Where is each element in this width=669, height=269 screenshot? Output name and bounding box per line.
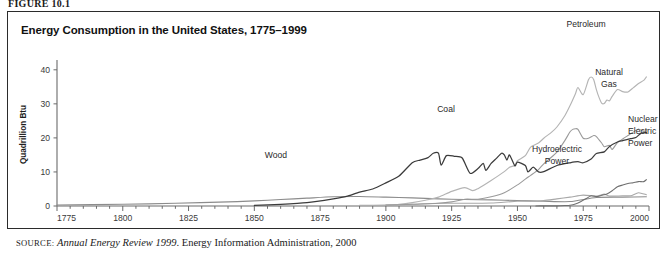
series-annotation-nuclear: Nuclear bbox=[628, 114, 658, 124]
y-axis-tick-label: 40 bbox=[40, 65, 50, 75]
x-axis-tick-label: 1900 bbox=[376, 213, 395, 223]
series-annotation-nuclear: Electric bbox=[628, 126, 657, 136]
chart-plot-area: 010203040Quadrillion Btu1775180018251850… bbox=[8, 12, 661, 230]
figure-page: FIGURE 10.1 Energy Consumption in the Un… bbox=[0, 0, 669, 269]
source-prefix: source: bbox=[16, 238, 54, 248]
x-axis-tick-label: 1825 bbox=[179, 213, 198, 223]
y-axis-tick-label: 20 bbox=[40, 133, 50, 143]
x-axis-tick-label: 1975 bbox=[574, 213, 593, 223]
series-annotation-hydroelectric: Power bbox=[545, 156, 569, 166]
figure-box: Energy Consumption in the United States,… bbox=[7, 11, 660, 229]
series-annotation-hydroelectric: Hydroelectric bbox=[532, 144, 583, 154]
source-publisher: . Energy Information Administration, 200… bbox=[176, 237, 356, 248]
x-axis-tick-label: 1950 bbox=[508, 213, 527, 223]
series-annotation-wood: Wood bbox=[265, 150, 288, 160]
series-line-wood bbox=[57, 196, 646, 205]
y-axis-tick-label: 30 bbox=[40, 99, 50, 109]
series-annotation-natural-gas: Gas bbox=[601, 79, 617, 89]
energy-consumption-line-chart: 010203040Quadrillion Btu1775180018251850… bbox=[8, 12, 661, 230]
figure-number-label: FIGURE 10.1 bbox=[8, 0, 70, 9]
series-annotation-petroleum: Petroleum bbox=[566, 19, 605, 29]
source-note: source: Annual Energy Review 1999. Energ… bbox=[16, 237, 357, 248]
x-axis-tick-label: 1850 bbox=[245, 213, 264, 223]
y-axis-tick-label: 10 bbox=[40, 167, 50, 177]
series-line-coal bbox=[254, 132, 646, 205]
source-title: Annual Energy Review 1999 bbox=[57, 237, 176, 248]
series-annotation-nuclear: Power bbox=[628, 138, 652, 148]
x-axis-tick-label: 2000 bbox=[630, 213, 649, 223]
x-axis-tick-label: 1875 bbox=[311, 213, 330, 223]
series-annotation-coal: Coal bbox=[437, 104, 455, 114]
y-axis-tick-label: 0 bbox=[45, 201, 50, 211]
series-annotation-natural-gas: Natural bbox=[595, 67, 623, 77]
x-axis-tick-label: 1800 bbox=[113, 213, 132, 223]
y-axis-title: Quadrillion Btu bbox=[19, 105, 28, 164]
x-axis-tick-label: 1925 bbox=[442, 213, 461, 223]
x-axis-tick-label: 1775 bbox=[57, 213, 76, 223]
